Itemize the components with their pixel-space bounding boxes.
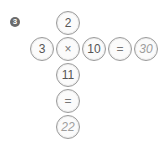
math-cross-puzzle: 3 2 3 × 10 = 30 11 = 22	[0, 0, 163, 151]
cell-horizontal-3: 3	[30, 37, 54, 61]
cell-vertical-2: 2	[56, 11, 80, 35]
problem-number-badge: 3	[10, 17, 20, 27]
cell-vertical-11: 11	[56, 63, 80, 87]
cell-horizontal-answer[interactable]: 30	[134, 37, 158, 61]
cell-multiply-operator: ×	[56, 37, 80, 61]
cell-horizontal-equals: =	[108, 37, 132, 61]
cell-vertical-answer[interactable]: 22	[56, 115, 80, 139]
cell-horizontal-10: 10	[82, 37, 106, 61]
cell-vertical-equals: =	[56, 89, 80, 113]
